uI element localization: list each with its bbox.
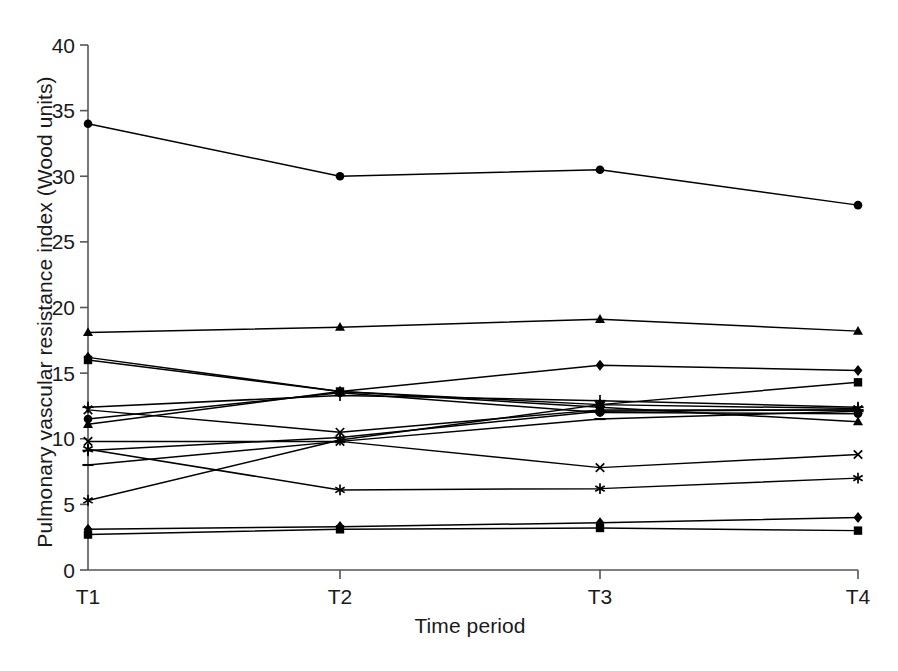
marker-square	[84, 356, 92, 364]
marker-circle	[854, 201, 863, 210]
x-axis-tick-label: T4	[846, 585, 871, 608]
marker-diamond	[854, 365, 863, 376]
series-line	[88, 518, 858, 530]
data-series	[84, 356, 862, 409]
marker-square	[84, 530, 92, 538]
x-axis-tick-label: T1	[76, 585, 101, 608]
series-line	[88, 528, 858, 535]
series-line	[88, 124, 858, 205]
data-series	[84, 389, 863, 424]
marker-square	[854, 526, 862, 534]
marker-circle	[596, 165, 605, 174]
y-axis-tick-label: 0	[63, 559, 75, 582]
chart-figure: 0510152025303540T1T2T3T4 Pulmonary vascu…	[0, 0, 898, 671]
marker-circle	[336, 172, 345, 181]
marker-square	[336, 525, 344, 533]
marker-diamond	[596, 360, 605, 371]
y-axis-title: Pulmonary vascular resistance index (Woo…	[33, 52, 57, 572]
series-line	[88, 319, 858, 332]
marker-square	[596, 524, 604, 532]
x-axis-tick-label: T3	[588, 585, 613, 608]
marker-triangle	[595, 314, 605, 323]
series-line	[88, 395, 858, 407]
series-line	[88, 405, 858, 501]
x-axis-tick-label: T2	[328, 585, 353, 608]
data-series	[83, 314, 863, 336]
x-axis-title: Time period	[280, 614, 660, 638]
y-axis-tick-label: 5	[63, 493, 75, 516]
marker-diamond	[854, 512, 863, 523]
line-chart-plot: 0510152025303540T1T2T3T4	[0, 0, 898, 671]
data-series	[84, 524, 862, 539]
data-series	[84, 512, 863, 535]
series-line	[88, 411, 858, 465]
marker-square	[854, 378, 862, 386]
marker-circle	[84, 119, 93, 128]
data-series	[84, 119, 863, 209]
data-series	[83, 444, 862, 495]
